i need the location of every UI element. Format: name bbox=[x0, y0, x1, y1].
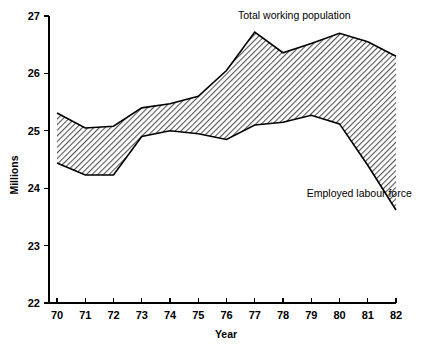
x-tick-label-72: 72 bbox=[107, 309, 119, 321]
x-tick-label-73: 73 bbox=[136, 309, 148, 321]
y-axis-tick-labels: 222324252627 bbox=[28, 10, 41, 309]
x-axis-tick-labels: 70717273747576777879808182 bbox=[51, 309, 402, 321]
y-tick-label-27: 27 bbox=[28, 10, 40, 22]
band-fill bbox=[57, 32, 396, 210]
y-tick-label-25: 25 bbox=[28, 125, 40, 137]
y-axis-ticks bbox=[44, 16, 49, 303]
annotation-total-working-population: Total working population bbox=[238, 9, 351, 21]
y-tick-label-26: 26 bbox=[28, 67, 40, 79]
x-axis-ticks bbox=[57, 298, 396, 303]
y-tick-label-22: 22 bbox=[28, 297, 40, 309]
x-tick-label-74: 74 bbox=[164, 309, 177, 321]
x-axis-title: Year bbox=[215, 328, 237, 340]
chart-container: 222324252627 70717273747576777879808182 … bbox=[0, 0, 424, 346]
x-tick-label-75: 75 bbox=[192, 309, 204, 321]
x-tick-label-80: 80 bbox=[333, 309, 345, 321]
x-tick-label-79: 79 bbox=[305, 309, 317, 321]
x-tick-label-82: 82 bbox=[390, 309, 402, 321]
annotation-employed-labour-force: Employed labour force bbox=[307, 187, 412, 199]
x-tick-label-78: 78 bbox=[277, 309, 289, 321]
x-tick-label-76: 76 bbox=[220, 309, 232, 321]
y-tick-label-23: 23 bbox=[28, 240, 40, 252]
y-axis-title: Millions bbox=[8, 155, 20, 194]
shaded-band bbox=[57, 32, 396, 210]
x-tick-label-81: 81 bbox=[362, 309, 374, 321]
y-tick-label-24: 24 bbox=[28, 182, 41, 194]
area-chart: 222324252627 70717273747576777879808182 … bbox=[0, 0, 424, 346]
x-tick-label-77: 77 bbox=[249, 309, 261, 321]
x-tick-label-71: 71 bbox=[79, 309, 91, 321]
x-tick-label-70: 70 bbox=[51, 309, 63, 321]
